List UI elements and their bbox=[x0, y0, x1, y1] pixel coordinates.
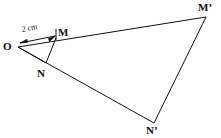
vertex-label-m: M bbox=[58, 27, 68, 38]
segment-o-n bbox=[18, 47, 46, 63]
segment-o-mprime bbox=[18, 17, 206, 47]
vertex-label-n-prime: N’ bbox=[146, 125, 158, 136]
vertex-label-m-prime: M’ bbox=[198, 2, 212, 13]
segment-mprime-nprime bbox=[154, 17, 206, 123]
geometry-figure bbox=[0, 0, 221, 138]
vertex-label-o: O bbox=[3, 41, 12, 52]
vertex-label-n: N bbox=[37, 68, 45, 79]
